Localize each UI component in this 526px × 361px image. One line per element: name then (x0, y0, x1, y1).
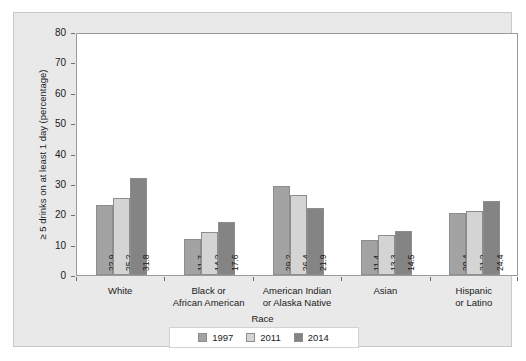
y-axis-tick-mark (71, 246, 75, 247)
bar-value-label: 31.8 (142, 254, 151, 271)
x-axis-tick-mark (517, 277, 518, 281)
legend-swatch-icon (246, 333, 255, 342)
y-axis-tick-mark (71, 33, 75, 34)
y-axis-tick-label: 10 (40, 241, 66, 251)
bar-value-label: 24.4 (496, 254, 505, 271)
plot-area: 22.925.231.811.714.217.629.226.421.911.4… (76, 33, 518, 276)
y-axis-tick-label: 0 (40, 271, 66, 281)
legend-swatch-icon (294, 333, 303, 342)
legend-label: 2011 (260, 332, 280, 343)
y-axis-tick-label: 40 (40, 150, 66, 160)
x-axis-category-label-line: or Latino (422, 297, 526, 309)
x-axis-tick-mark (253, 277, 254, 281)
y-axis-tick-mark (71, 185, 75, 186)
legend-item[interactable]: 2011 (246, 332, 280, 343)
legend-swatch-icon (198, 333, 207, 342)
legend-item[interactable]: 2014 (294, 332, 329, 343)
x-axis-tick-mark (341, 277, 342, 281)
y-axis-tick-mark (71, 155, 75, 156)
x-axis-tick-mark (430, 277, 431, 281)
x-axis-tick-mark (76, 277, 77, 281)
y-axis-tick-mark (71, 63, 75, 64)
x-axis-category-label-line: or Alaska Native (245, 297, 349, 309)
bar-value-label: 21.9 (319, 254, 328, 271)
y-axis-tick-label: 50 (40, 119, 66, 129)
y-axis-tick-mark (71, 276, 75, 277)
y-axis-tick-label: 30 (40, 180, 66, 190)
legend-label: 1997 (212, 332, 233, 343)
chart-legend: 199720112014 (169, 327, 359, 348)
x-axis-label: Race (14, 313, 511, 324)
chart-panel: ≥ 5 drinks on at least 1 day (percentage… (13, 12, 512, 347)
bar-value-label: 14.5 (407, 254, 416, 271)
y-axis-tick-mark (71, 215, 75, 216)
y-axis-tick-label: 70 (40, 58, 66, 68)
legend-item[interactable]: 1997 (198, 332, 233, 343)
y-axis-tick-label: 20 (40, 210, 66, 220)
y-axis-tick-label: 60 (40, 89, 66, 99)
x-axis-category-label: Hispanicor Latino (422, 285, 526, 308)
legend-label: 2014 (308, 332, 329, 343)
y-axis-tick-label: 80 (40, 28, 66, 38)
y-axis-tick-mark (71, 94, 75, 95)
bar-value-label: 17.6 (231, 254, 240, 271)
x-axis-tick-mark (164, 277, 165, 281)
y-axis-tick-mark (71, 124, 75, 125)
x-axis-category-label-line: Hispanic (422, 285, 526, 297)
chart-figure: ≥ 5 drinks on at least 1 day (percentage… (0, 0, 526, 361)
